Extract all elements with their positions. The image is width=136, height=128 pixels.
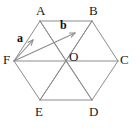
hexagon-vector-diagram: A B C D E F O a b xyxy=(0,0,136,128)
vertex-label-F: F xyxy=(3,53,10,66)
hexagon-edge-BC xyxy=(92,21,118,61)
vertex-label-B: B xyxy=(89,4,98,17)
vertex-label-A: A xyxy=(36,4,45,17)
diagram-canvas xyxy=(0,0,136,128)
vector-label-a: a xyxy=(17,32,23,44)
diagonal-OE xyxy=(40,61,66,100)
vertex-label-C: C xyxy=(120,53,129,66)
hexagon-diagonals xyxy=(14,21,118,100)
vertex-label-D: D xyxy=(89,105,98,118)
hexagon-edge-EF xyxy=(14,61,40,100)
diagonal-OD xyxy=(66,61,92,100)
vertex-label-E: E xyxy=(35,105,43,118)
vertex-label-O: O xyxy=(69,50,78,63)
hexagon-edge-CD xyxy=(92,61,118,100)
vector-label-b: b xyxy=(60,19,67,31)
